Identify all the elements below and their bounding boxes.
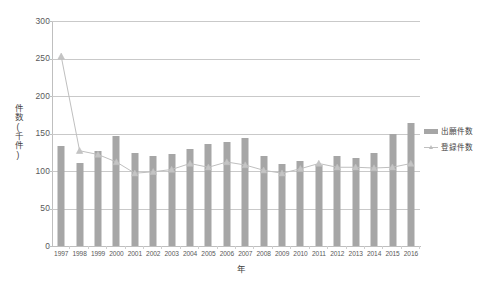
x-tick-label: 2016	[402, 250, 420, 262]
legend-item-registrations[interactable]: 登録件数	[424, 140, 482, 154]
x-tick-label: 2010	[291, 250, 309, 262]
y-tick-label: 200	[4, 92, 50, 101]
y-tick-label: 0	[4, 242, 50, 251]
line-marker-triangle[interactable]: 2004: 110	[187, 160, 193, 166]
y-tick-label: 250	[4, 54, 50, 63]
line-marker-triangle[interactable]: 2011: 110	[316, 160, 322, 166]
x-tick-label: 1998	[70, 250, 88, 262]
line-marker-triangle[interactable]: 2006: 112	[224, 159, 230, 165]
chart-container: 件数(千件) 300250200150100500 1997: 2531998:…	[0, 0, 483, 281]
line-marker-triangle[interactable]: 1997: 253	[58, 53, 64, 59]
plot-area: 1997: 2531998: 1271999: 1222000: 1122001…	[52, 21, 420, 246]
x-axis-title: 年	[0, 264, 483, 274]
x-tick-label: 1997	[52, 250, 70, 262]
line-marker-triangle[interactable]: 2016: 110	[408, 160, 414, 166]
x-tick-label: 2003	[162, 250, 180, 262]
x-tick-label: 2000	[107, 250, 125, 262]
legend-label-registrations: 登録件数	[441, 143, 473, 152]
x-tick-label: 2006	[218, 250, 236, 262]
legend-bar-swatch-icon	[424, 129, 438, 134]
x-tick-label: 2014	[365, 250, 383, 262]
x-tick-label: 2013	[347, 250, 365, 262]
x-tick-label: 2005	[199, 250, 217, 262]
x-tick-label: 2002	[144, 250, 162, 262]
x-tick-label: 2015	[383, 250, 401, 262]
y-tick-label: 100	[4, 167, 50, 176]
legend-item-applications[interactable]: 出願件数	[424, 124, 482, 138]
legend-line-triangle-swatch-icon	[424, 144, 438, 151]
y-tick-label: 150	[4, 129, 50, 138]
y-axis-tick-labels: 300250200150100500	[0, 0, 50, 281]
line-marker-triangle[interactable]: 1998: 127	[76, 148, 82, 154]
x-tick-label: 1999	[89, 250, 107, 262]
x-axis-tick-labels: 1997199819992000200120022003200420052006…	[52, 250, 420, 262]
x-tick-label: 2007	[236, 250, 254, 262]
line-path	[61, 56, 411, 173]
x-tick-label: 2008	[254, 250, 272, 262]
x-tick-label: 2001	[126, 250, 144, 262]
chart-legend: 出願件数 登録件数	[424, 124, 482, 156]
legend-label-applications: 出願件数	[441, 127, 473, 136]
x-tick-label: 2012	[328, 250, 346, 262]
line-series-登録件数: 1997: 2531998: 1271999: 1222000: 1122001…	[52, 21, 420, 246]
x-tick-label: 2011	[310, 250, 328, 262]
x-tick-label: 2009	[273, 250, 291, 262]
y-tick-label: 300	[4, 17, 50, 26]
line-marker-triangle[interactable]: 2000: 112	[113, 159, 119, 165]
y-tick-label: 50	[4, 204, 50, 213]
x-tick-label: 2004	[181, 250, 199, 262]
